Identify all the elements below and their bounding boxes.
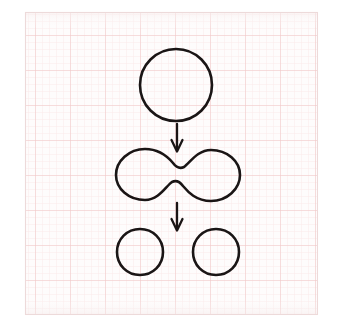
graph-paper-sheet <box>25 12 318 315</box>
cell-division-figure <box>0 0 341 330</box>
graph-paper-shading <box>25 12 318 315</box>
diagram-canvas <box>0 0 341 330</box>
